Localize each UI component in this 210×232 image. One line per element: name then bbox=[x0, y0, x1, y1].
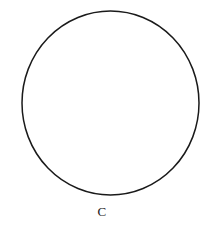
circle-outline bbox=[22, 11, 199, 195]
circle-label: C bbox=[0, 204, 210, 219]
figure-canvas: C bbox=[0, 0, 210, 232]
circle-shape-layer bbox=[0, 0, 210, 232]
